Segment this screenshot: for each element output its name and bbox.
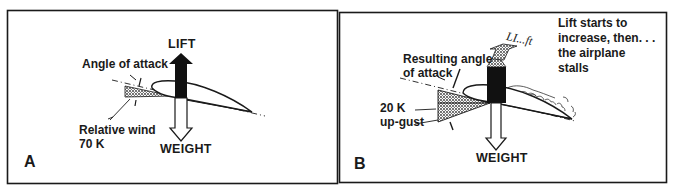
panel-a-label: A [24,155,36,169]
caption-line-2: increase, then. . . [558,31,655,45]
airfoil [152,81,252,112]
panel-b-label: B [354,157,366,171]
weight-label: WEIGHT [160,142,212,156]
panel-a: LIFT Angle of attack Relative wind 70 K … [0,0,340,193]
caption-line-1: Lift starts to [558,16,627,30]
panel-a-drawing [0,0,340,193]
up-gust-label: up-gust [380,115,424,129]
relative-wind-speed-label: 70 K [79,137,104,151]
of-attack-label: of attack [403,66,452,80]
resulting-angle-label: Resulting angle [403,52,492,66]
caption-line-4: stalls [558,61,589,75]
angle-of-attack-label: Angle of attack [82,57,168,71]
weight-arrow [486,103,506,150]
relative-wind-label: Relative wind [79,123,156,137]
caption-line-3: the airplane [558,46,625,60]
weight-arrow [170,98,192,141]
gust-speed-label: 20 K [380,101,405,115]
lift-arrow-body [487,67,506,103]
panel-b: LI...ft Resulting angle of attack 20 K u… [335,0,675,193]
weight-label: WEIGHT [476,151,528,165]
lift-label: LIFT [168,37,196,51]
lift-arrow-head [490,44,517,60]
